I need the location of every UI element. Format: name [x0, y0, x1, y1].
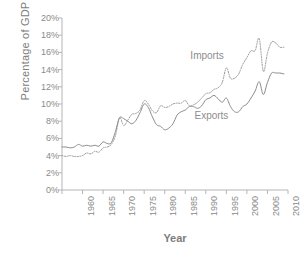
series-imports: [62, 38, 284, 156]
exports-series-label: Exports: [194, 110, 228, 121]
plot-area: [0, 0, 305, 255]
chart-container: Percentage of GDP Year 0%2%4%6%8%10%12%1…: [0, 0, 305, 255]
series-exports: [62, 72, 284, 148]
imports-series-label: Imports: [190, 50, 223, 61]
